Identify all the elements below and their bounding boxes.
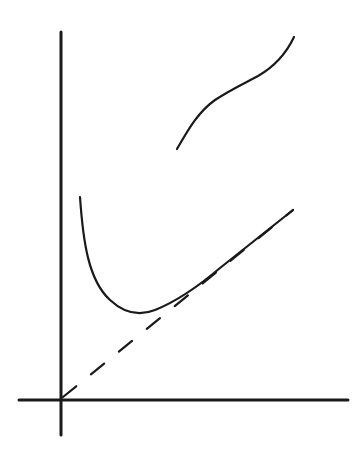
sketch-svg xyxy=(0,0,361,454)
sketch-canvas xyxy=(0,0,361,454)
axes xyxy=(19,32,348,435)
upper-s-curve xyxy=(177,37,294,149)
